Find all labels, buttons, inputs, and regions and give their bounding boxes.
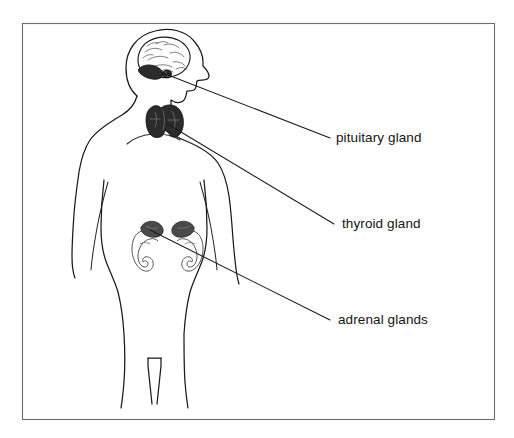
- label-adrenal-glands: adrenal glands: [338, 313, 428, 327]
- label-thyroid-gland: thyroid gland: [342, 217, 421, 231]
- figure-border: [23, 24, 495, 420]
- diagram-canvas: [0, 0, 514, 438]
- endocrine-diagram-figure: pituitary gland thyroid gland adrenal gl…: [0, 0, 514, 438]
- label-pituitary-gland: pituitary gland: [336, 131, 422, 145]
